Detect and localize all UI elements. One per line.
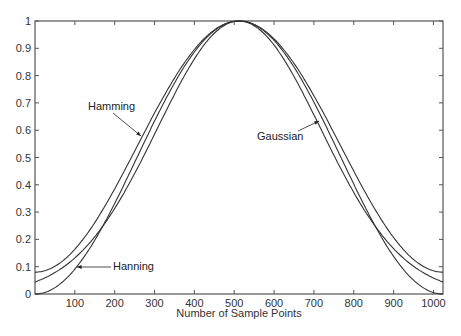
x-tick-label: 300 bbox=[145, 297, 163, 309]
y-tick-label: 0.1 bbox=[16, 261, 31, 273]
y-tick-label: 0 bbox=[25, 288, 31, 300]
hamming-label: Hamming bbox=[88, 100, 135, 112]
y-tick-label: 0.7 bbox=[16, 97, 31, 109]
x-tick-label: 200 bbox=[106, 297, 124, 309]
y-tick-label: 0.5 bbox=[16, 152, 31, 164]
y-tick-label: 0.9 bbox=[16, 42, 31, 54]
x-axis-label: Number of Sample Points bbox=[176, 307, 302, 319]
x-tick-label: 1000 bbox=[421, 297, 445, 309]
curve-gaussian bbox=[35, 21, 443, 282]
y-tick-label: 0.8 bbox=[16, 70, 31, 82]
window-functions-chart: 00.10.20.30.40.50.60.70.80.9110020030040… bbox=[0, 0, 461, 336]
y-tick-label: 1 bbox=[25, 15, 31, 27]
y-tick-label: 0.4 bbox=[16, 179, 31, 191]
x-tick-label: 100 bbox=[66, 297, 84, 309]
x-tick-label: 800 bbox=[345, 297, 363, 309]
hamming-arrow bbox=[113, 113, 141, 136]
hanning-label: Hanning bbox=[113, 260, 154, 272]
y-tick-label: 0.2 bbox=[16, 233, 31, 245]
curve-hanning bbox=[35, 21, 443, 294]
x-tick-label: 700 bbox=[305, 297, 323, 309]
y-tick-label: 0.6 bbox=[16, 124, 31, 136]
y-tick-label: 0.3 bbox=[16, 206, 31, 218]
x-tick-label: 900 bbox=[384, 297, 402, 309]
plot-frame bbox=[35, 21, 443, 294]
gaussian-label: Gaussian bbox=[257, 130, 303, 142]
